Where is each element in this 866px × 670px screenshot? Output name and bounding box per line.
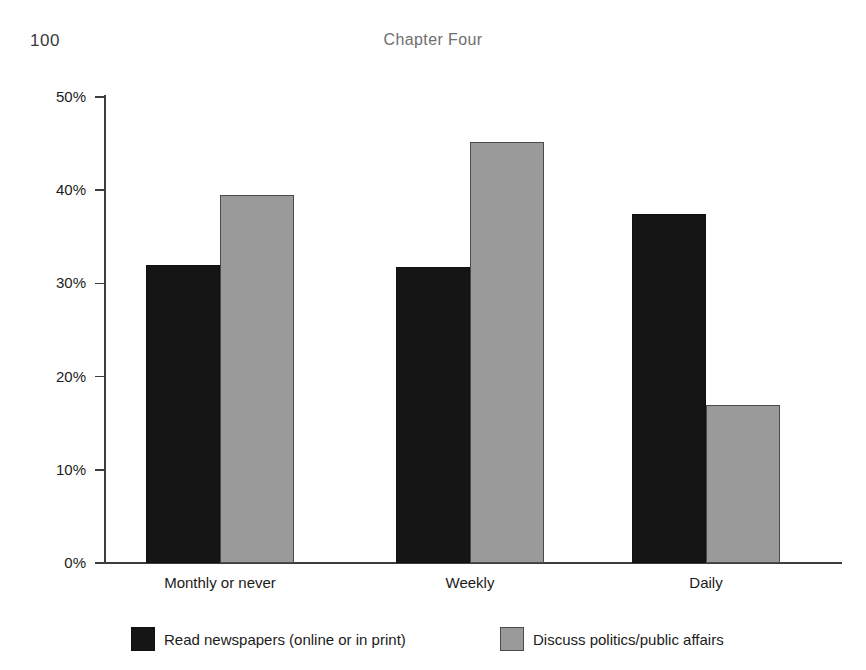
y-axis-tick-label-text: 50% xyxy=(24,88,86,105)
y-axis-tick-label-text: 10% xyxy=(24,461,86,478)
y-axis-tick-label-text: 20% xyxy=(24,368,86,385)
bar xyxy=(220,195,294,563)
legend-swatch-icon xyxy=(500,627,524,651)
bar xyxy=(470,142,544,563)
chart-figure: 100 Chapter Four 0%10%20%30%40%50% Month… xyxy=(0,0,866,670)
bar xyxy=(632,214,706,564)
bar xyxy=(146,265,220,563)
bar xyxy=(706,405,780,563)
legend-item: Read newspapers (online or in print) xyxy=(131,627,406,651)
bar xyxy=(396,267,470,563)
running-head: Chapter Four xyxy=(0,31,866,49)
y-axis-tick-label-text: 30% xyxy=(24,274,86,291)
x-axis-category-label: Weekly xyxy=(356,574,584,591)
legend-item: Discuss politics/public affairs xyxy=(500,627,724,651)
y-axis-tick-label-text: 40% xyxy=(24,181,86,198)
chart-legend: Read newspapers (online or in print)Disc… xyxy=(0,619,866,659)
y-axis-tick-label-text: 0% xyxy=(24,554,86,571)
legend-label: Read newspapers (online or in print) xyxy=(164,631,406,648)
x-axis-category-label: Daily xyxy=(592,574,820,591)
legend-label: Discuss politics/public affairs xyxy=(533,631,724,648)
legend-swatch-icon xyxy=(131,627,155,651)
x-axis-category-label: Monthly or never xyxy=(106,574,334,591)
plot-area xyxy=(104,97,841,563)
